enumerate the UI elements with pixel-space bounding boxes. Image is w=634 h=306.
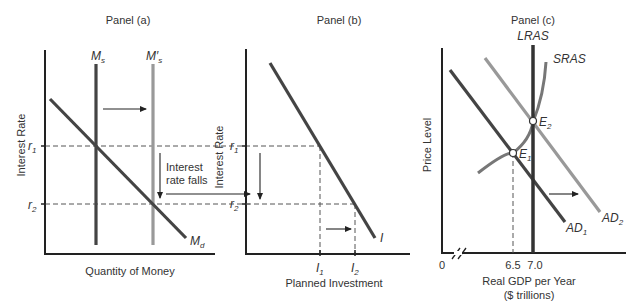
aggregate-demand-curve-ad1 (450, 70, 565, 222)
panel-b-title: Panel (b) (317, 14, 362, 26)
x-tick-6-5: 6.5 (505, 259, 520, 271)
ad2-label: AD2 (601, 211, 624, 227)
ms-label: Ms (91, 49, 105, 65)
panel-b: Panel (b) Interest Rate r1 r2 I I1 I2 Pl… (213, 14, 410, 289)
equilibrium-point-e2 (530, 118, 537, 125)
panel-b-x-axis-label: Planned Investment (285, 277, 382, 289)
md-label: Md (190, 234, 205, 250)
panel-c-x-axis-label-line2: ($ trillions) (504, 289, 555, 301)
panel-a-y-axis-label: Interest Rate (15, 114, 27, 177)
panel-a-axes (45, 50, 215, 254)
e1-label: E1 (519, 147, 531, 163)
panel-b-r2-label: r2 (230, 197, 239, 213)
monetary-transmission-diagram: Panel (a) Interest Rate r1 r2 Ms M′s Md … (0, 0, 634, 306)
panel-c-title: Panel (c) (511, 14, 555, 26)
panel-b-axes (246, 49, 410, 254)
panel-b-y-axis-label: Interest Rate (213, 126, 225, 189)
lras-label: LRAS (517, 29, 548, 43)
panel-c-y-axis-label: Price Level (421, 118, 433, 172)
investment-curve-label: I (380, 231, 384, 245)
panel-a-title: Panel (a) (106, 14, 151, 26)
interest-rate-falls-text-line2: rate falls (166, 174, 208, 186)
panel-c: Panel (c) Price Level AD2 AD1 SRAS LRAS … (421, 14, 626, 301)
i1-label: I1 (316, 261, 324, 277)
e2-label: E2 (539, 115, 552, 131)
equilibrium-point-e1 (510, 150, 517, 157)
panel-a-r1-label: r1 (28, 139, 36, 155)
panel-a: Panel (a) Interest Rate r1 r2 Ms M′s Md … (15, 14, 320, 277)
panel-c-x-axis-label-line1: Real GDP per Year (482, 275, 576, 287)
ad1-label: AD1 (565, 221, 587, 237)
x-tick-7-0: 7.0 (527, 259, 542, 271)
sras-label: SRAS (553, 52, 586, 66)
ms-prime-label: M′s (146, 49, 162, 65)
origin-label: 0 (439, 259, 445, 271)
panel-a-r2-label: r2 (28, 198, 37, 214)
i2-label: I2 (351, 261, 359, 277)
panel-a-x-axis-label: Quantity of Money (85, 265, 175, 277)
panel-b-r1-label: r1 (230, 139, 238, 155)
investment-demand-curve (270, 63, 375, 238)
interest-rate-falls-text-line1: Interest (166, 161, 203, 173)
